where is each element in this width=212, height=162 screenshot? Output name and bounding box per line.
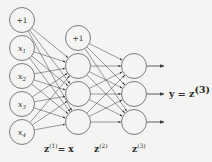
svg-text:z(1)= x: z(1)= x — [44, 142, 74, 154]
layer-label-input: z(1)= x — [44, 142, 74, 154]
output-node-0-circle — [122, 54, 147, 79]
hidden-bias-node-label: +1 — [72, 34, 83, 43]
connection-edge — [34, 52, 66, 62]
output-equation-annotation: y = z(3) — [168, 84, 210, 99]
hidden-node-1-circle — [66, 82, 91, 107]
output-node-1-circle — [122, 82, 147, 107]
svg-text:z(2): z(2) — [94, 142, 108, 154]
network-diagram-canvas: +1x1x2x3x4 +1 z(1)= x z(2) z(3) y = z(3) — [0, 0, 212, 162]
svg-text:y = z(3): y = z(3) — [168, 84, 210, 99]
layer-label-hidden: z(2) — [94, 142, 108, 154]
output-layer-nodes — [122, 54, 147, 135]
input-layer-label-sup: (1) — [49, 142, 58, 149]
connection-edge — [34, 124, 65, 130]
output-arrows — [147, 66, 165, 122]
input-layer-label-suffix: = x — [58, 144, 75, 154]
output-equation-text: y = z — [168, 88, 195, 99]
svg-text:z(3): z(3) — [132, 142, 146, 154]
output-equation-sup: (3) — [195, 84, 211, 95]
output-node-2-circle — [122, 110, 147, 135]
connection-edge — [32, 28, 68, 58]
neural-network-figure: +1x1x2x3x4 +1 z(1)= x z(2) z(3) y = z(3) — [0, 0, 212, 162]
hidden-node-2-circle — [66, 110, 91, 135]
hidden-node-0-circle — [66, 54, 91, 79]
connection-edge — [89, 44, 122, 61]
output-layer-label-sup: (3) — [137, 142, 146, 149]
connection-edge — [32, 101, 67, 125]
connection-edge — [30, 76, 69, 122]
edges-hidden-to-output — [85, 44, 127, 122]
layer-label-output: z(3) — [132, 142, 146, 154]
input-node-0-label: +1 — [16, 16, 27, 25]
hidden-layer-label-sup: (2) — [99, 142, 108, 149]
input-layer-nodes: +1x1x2x3x4 — [10, 8, 35, 145]
hidden-layer-nodes: +1 — [66, 26, 91, 135]
